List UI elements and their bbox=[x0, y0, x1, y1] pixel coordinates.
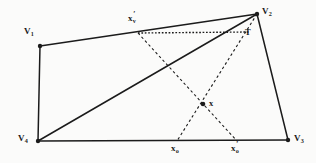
label-v1-sub: 1 bbox=[31, 30, 34, 37]
edge-v4-v1 bbox=[38, 46, 40, 141]
vertex-dot-v2 bbox=[255, 12, 259, 16]
label-v3-sub: 3 bbox=[301, 137, 304, 144]
label-xv-prime-mark: ′ bbox=[133, 10, 135, 19]
edge-v2-v3 bbox=[257, 14, 288, 140]
label-v2-sub: 2 bbox=[269, 10, 272, 17]
vertex-dot-v4 bbox=[36, 139, 40, 143]
label-v3: V3 bbox=[294, 134, 304, 143]
label-v1-text: V bbox=[24, 26, 31, 36]
geometry-diagram: V1 V2 V3 V4 xv′ T x xo xo′ bbox=[0, 0, 316, 163]
label-xv-prime-text: x bbox=[128, 13, 133, 23]
label-xo-prime-text: x bbox=[231, 143, 236, 153]
label-v2: V2 bbox=[262, 7, 272, 16]
label-v3-text: V bbox=[294, 133, 301, 143]
vertex-dot-v1 bbox=[38, 44, 42, 48]
point-dot-x bbox=[201, 102, 206, 107]
label-t-text: T bbox=[245, 27, 251, 37]
label-x-text: x bbox=[209, 98, 213, 108]
label-v1: V1 bbox=[24, 27, 34, 36]
chord-xvprime-to-T bbox=[138, 32, 249, 33]
diagonal-v4-v2 bbox=[38, 14, 257, 141]
label-v4: V4 bbox=[18, 134, 28, 143]
edge-v1-v2 bbox=[40, 14, 257, 46]
label-x: x bbox=[209, 99, 213, 108]
label-v2-text: V bbox=[262, 6, 269, 16]
edge-v3-v4 bbox=[38, 140, 288, 141]
label-t: T bbox=[245, 28, 251, 37]
label-xo: xo bbox=[171, 144, 179, 153]
label-xo-prime: xo′ bbox=[231, 144, 241, 153]
label-xo-sub: o bbox=[176, 147, 179, 154]
vertex-dot-v3 bbox=[286, 138, 290, 142]
label-xo-text: x bbox=[171, 143, 176, 153]
figure-canvas bbox=[0, 0, 316, 163]
label-xv-prime: xv′ bbox=[128, 14, 138, 23]
label-v4-text: V bbox=[18, 133, 25, 143]
label-v4-sub: 4 bbox=[25, 137, 28, 144]
label-xo-prime-mark: ′ bbox=[236, 140, 238, 149]
